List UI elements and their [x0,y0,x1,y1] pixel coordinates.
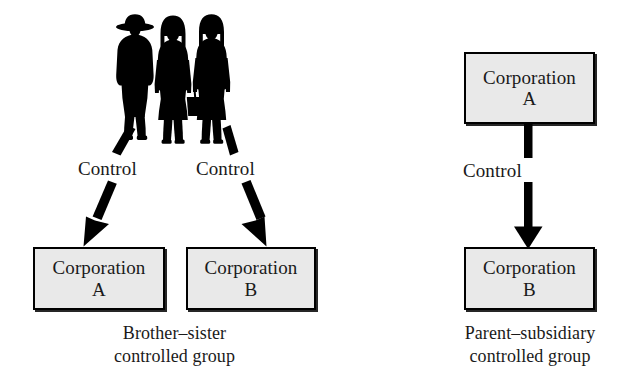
control-arrow-middle [223,125,267,247]
control-label-middle: Control [196,158,255,180]
three-people-silhouette-icon [116,14,230,144]
corporation-b-subsidiary-line2: B [523,279,536,300]
corporation-b-box-line1: Corporation [205,257,298,278]
corporation-a-box-brother-sister[interactable]: Corporation A [33,247,165,310]
corporation-b-subsidiary-line1: Corporation [483,257,576,278]
corporation-a-box-line1: Corporation [53,257,146,278]
parent-subsidiary-caption-line2: controlled group [410,345,627,368]
brother-sister-caption-line2: controlled group [0,345,349,368]
controlled-group-diagram: Corporation A Corporation B Corporation … [0,0,627,389]
parent-subsidiary-caption: Parent–subsidiary controlled group [410,322,627,368]
corporation-a-box-line2: A [92,279,106,300]
brother-sister-caption-line1: Brother–sister [0,322,349,345]
brother-sister-caption: Brother–sister controlled group [0,322,349,368]
control-label-left: Control [78,158,137,180]
corporation-b-box-brother-sister[interactable]: Corporation B [186,247,316,310]
corporation-a-box-parent-subsidiary[interactable]: Corporation A [464,52,595,124]
corporation-b-box-line2: B [245,279,258,300]
control-label-right: Control [463,160,522,182]
corporation-b-box-parent-subsidiary[interactable]: Corporation B [464,247,595,310]
corporation-a-parent-line2: A [523,88,537,109]
corporation-a-parent-line1: Corporation [483,67,576,88]
parent-subsidiary-caption-line1: Parent–subsidiary [410,322,627,345]
control-arrow-right [514,124,543,249]
control-arrow-left [84,126,136,247]
